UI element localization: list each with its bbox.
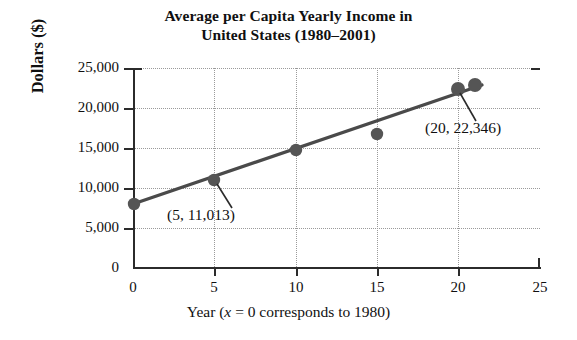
chart-title: Average per Capita Yearly Income in Unit… <box>0 6 577 44</box>
x-tick-label-5: 5 <box>184 280 244 295</box>
leader-line-annotation-1 <box>217 184 232 208</box>
y-tick-label-15000: 15,000 <box>9 140 119 155</box>
y-tick-label-25000: 25,000 <box>9 60 119 75</box>
annotation-point-20: (20, 22,346) <box>425 120 501 136</box>
data-point-5 <box>468 78 482 92</box>
trend-line <box>133 85 482 204</box>
y-tick-label-5000: 5,000 <box>9 220 119 235</box>
y-tick-10000 <box>124 188 133 190</box>
x-tick-label-10: 10 <box>266 280 326 295</box>
y-tick-label-20000: 20,000 <box>9 100 119 115</box>
chart-title-line-2: United States (1980–2001) <box>0 25 577 44</box>
leader-line-annotation-2 <box>460 93 476 121</box>
x-tick-label-20: 20 <box>428 280 488 295</box>
data-point-1 <box>208 174 220 186</box>
annotation-point-5: (5, 11,013) <box>167 207 235 223</box>
chart-title-line-1: Average per Capita Yearly Income in <box>0 6 577 25</box>
data-point-4 <box>451 82 465 96</box>
y-tick-5000 <box>124 228 133 230</box>
x-tick-label-25: 25 <box>510 280 570 295</box>
data-layer <box>133 68 540 269</box>
data-point-0 <box>128 198 140 210</box>
data-point-2 <box>290 144 302 156</box>
y-tick-15000 <box>124 148 133 150</box>
y-tick-label-10000: 10,000 <box>9 180 119 195</box>
x-tick-label-15: 15 <box>347 280 407 295</box>
x-axis-title: Year (x = 0 corresponds to 1980) <box>0 303 577 321</box>
chart-figure: Average per Capita Yearly Income in Unit… <box>0 0 577 340</box>
data-point-3 <box>371 128 383 140</box>
y-tick-label-0: 0 <box>9 260 119 275</box>
plot-area: 25,000 20,000 15,000 10,000 5,000 0 0 5 … <box>133 68 540 268</box>
x-axis-title-pre: Year ( <box>187 303 225 320</box>
y-tick-20000 <box>124 108 133 110</box>
y-tick-25000 <box>124 68 133 70</box>
x-axis-title-post: = 0 corresponds to 1980) <box>231 303 390 320</box>
x-tick-label-0: 0 <box>103 280 163 295</box>
